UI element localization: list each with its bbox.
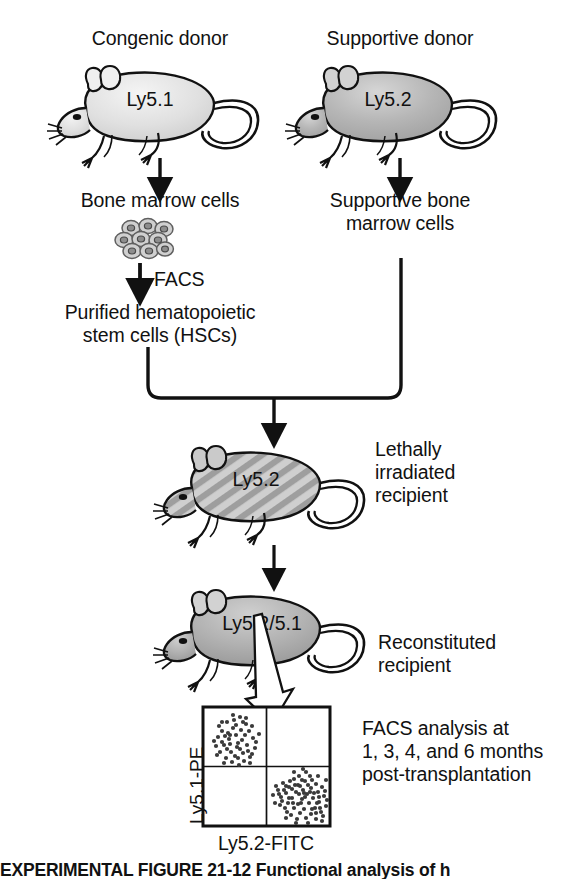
facs-x-axis-label: Ly5.2-FITC: [218, 832, 314, 855]
figure-caption: EXPERIMENTAL FIGURE 21-12 Functional ana…: [0, 860, 588, 879]
label-facs-process: FACS: [154, 268, 205, 291]
label-supportive-bm-line2: marrow cells: [346, 212, 454, 235]
caption-title: EXPERIMENTAL FIGURE 21-12: [0, 860, 251, 879]
mouse-label-ly52-donor: Ly5.2: [365, 88, 412, 110]
mouse-label-ly51: Ly5.1: [127, 88, 174, 110]
mouse-irradiated-recipient: Ly5.2: [153, 446, 364, 548]
mouse-label-ly52-recipient: Ly5.2: [233, 468, 280, 490]
label-reconstituted-line2: recipient: [378, 654, 451, 677]
label-lethally-line1: Lethally: [375, 438, 441, 461]
label-analysis-line3: post-transplantation: [362, 763, 531, 786]
label-analysis-line1: FACS analysis at: [362, 717, 509, 740]
facs-y-axis-label: Ly5.1-PE: [186, 747, 207, 824]
label-reconstituted-line1: Reconstituted: [378, 631, 496, 654]
label-congenic-donor: Congenic donor: [92, 27, 228, 50]
label-bone-marrow-cells: Bone marrow cells: [81, 189, 240, 212]
mouse-congenic-donor: Ly5.1: [47, 66, 258, 168]
label-lethally-line2: irradiated: [375, 461, 455, 484]
label-lethally-line3: recipient: [375, 484, 448, 507]
caption-text: Functional analysis of h: [251, 860, 450, 879]
mouse-supportive-donor: Ly5.2: [285, 66, 496, 168]
facs-dot-plot: [203, 707, 330, 826]
label-purified-hsc-line2: stem cells (HSCs): [83, 324, 237, 347]
experimental-figure-diagram: Ly5.1 Ly5.2: [0, 0, 588, 879]
bone-marrow-cell-cluster-icon: [115, 219, 173, 259]
label-supportive-bm-line1: Supportive bone: [330, 189, 471, 212]
label-analysis-line2: 1, 3, 4, and 6 months: [362, 740, 543, 763]
label-purified-hsc-line1: Purified hematopoietic: [65, 301, 256, 324]
label-supportive-donor: Supportive donor: [327, 27, 474, 50]
